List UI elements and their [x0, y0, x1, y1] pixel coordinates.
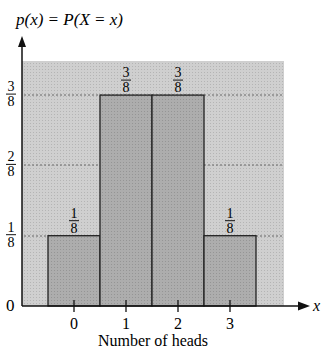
svg-text:8: 8: [8, 164, 15, 179]
x-tick-label-1: 1: [122, 315, 130, 332]
svg-text:8: 8: [227, 221, 234, 236]
x-axis-arrow-icon: [298, 302, 310, 311]
svg-text:3: 3: [175, 65, 182, 80]
bar-3: [204, 236, 256, 306]
svg-text:8: 8: [8, 235, 15, 250]
bar-2: [152, 95, 204, 306]
y-ticks: 0182838: [6, 79, 16, 315]
svg-text:8: 8: [175, 80, 182, 95]
svg-text:8: 8: [71, 221, 78, 236]
svg-text:8: 8: [8, 94, 15, 109]
x-tick-label-0: 0: [70, 315, 78, 332]
svg-text:1: 1: [71, 206, 78, 221]
y-tick-label-3-8: 38: [6, 79, 16, 109]
svg-text:1: 1: [227, 206, 234, 221]
y-tick-label-0: 0: [6, 296, 15, 315]
svg-text:8: 8: [123, 80, 130, 95]
probability-histogram: 18383818 x 0123 0182838 p(x) = P(X = x) …: [0, 0, 334, 362]
y-tick-label-2-8: 28: [6, 149, 16, 179]
x-axis-title: Number of heads: [98, 332, 208, 349]
x-tick-label-3: 3: [226, 315, 234, 332]
svg-text:2: 2: [8, 149, 15, 164]
y-tick-label-1-8: 18: [6, 220, 16, 250]
y-axis-arrow-icon: [18, 36, 26, 47]
x-tick-label-2: 2: [174, 315, 182, 332]
svg-text:1: 1: [8, 220, 15, 235]
y-axis-title: p(x) = P(X = x): [15, 10, 123, 29]
bar-0: [48, 236, 100, 306]
x-axis-symbol: x: [312, 297, 320, 314]
svg-text:3: 3: [123, 65, 130, 80]
bar-1: [100, 95, 152, 306]
svg-text:3: 3: [8, 79, 15, 94]
